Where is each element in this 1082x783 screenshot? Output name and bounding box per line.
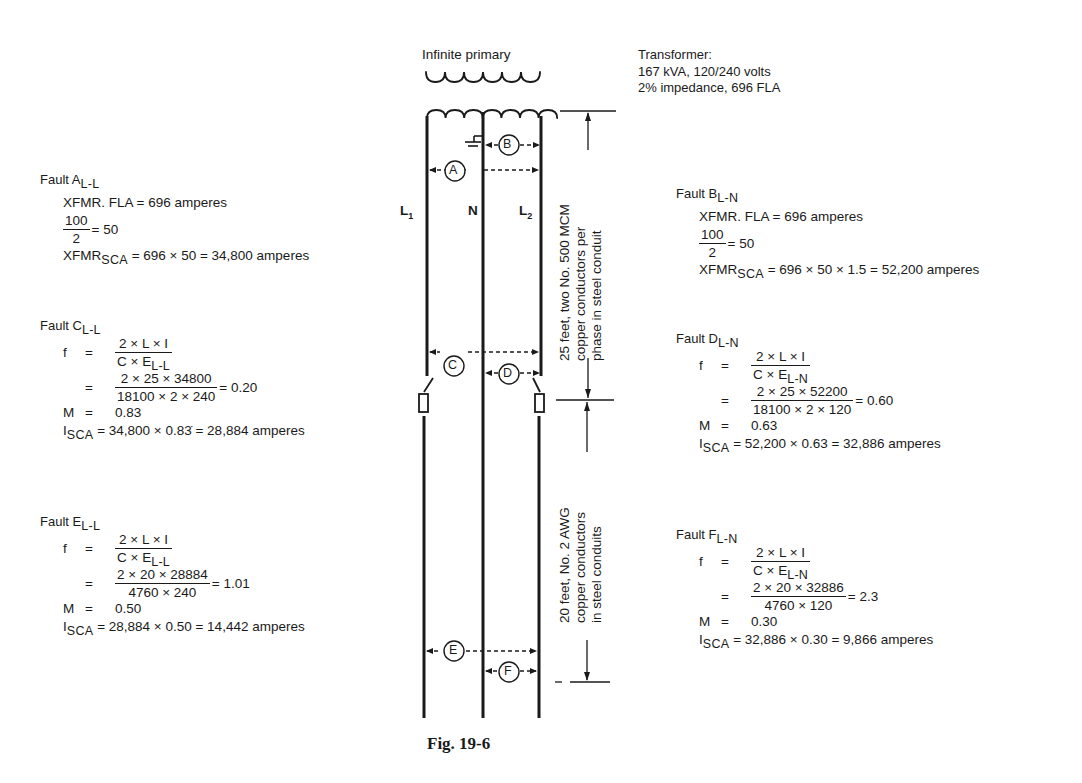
fault-e-calc: = 2 × 20 × 288844760 × 240 = 1.01 bbox=[63, 567, 305, 600]
fault-e-block: Fault EL-L f= 2 × L × IC × EL-L = 2 × 20… bbox=[40, 514, 305, 634]
breaker-l2-icon bbox=[533, 378, 544, 412]
fault-b-fla: XFMR. FLA = 696 amperes bbox=[699, 209, 979, 224]
fault-point-b-label: B bbox=[503, 137, 511, 151]
fault-point-f-label: F bbox=[504, 664, 512, 678]
transformer-impedance: 2% impedance, 696 FLA bbox=[638, 80, 780, 97]
fault-f-multiplier: M=0.30 bbox=[699, 614, 933, 629]
fault-c-title: Fault CL-L bbox=[40, 318, 305, 333]
breaker-l1-icon bbox=[419, 378, 433, 412]
fault-b-ratio: 1002 = 50 bbox=[699, 227, 979, 260]
transformer-title: Transformer: bbox=[638, 47, 780, 64]
infinite-primary-label: Infinite primary bbox=[422, 47, 511, 62]
fault-a-ratio: 1002 = 50 bbox=[63, 213, 309, 246]
fault-d-isca: ISCA = 52,200 × 0.63 = 32,886 amperes bbox=[699, 436, 941, 451]
fault-a-title: Fault AL-L bbox=[40, 172, 309, 187]
fault-c-isca: ISCA = 34,800 × 0.83̇ = 28,884 amperes bbox=[63, 423, 305, 438]
fault-f-title: Fault FL-N bbox=[676, 527, 933, 542]
fault-e-isca: ISCA = 28,884 × 0.50 = 14,442 amperes bbox=[63, 619, 305, 634]
fault-e-formula: f= 2 × L × IC × EL-L bbox=[63, 532, 305, 565]
figure-caption: Fig. 19-6 bbox=[427, 734, 490, 754]
fault-a-block: Fault AL-L XFMR. FLA = 696 amperes 1002 … bbox=[40, 172, 309, 263]
segment2-label: 20 feet, No. 2 AWG copper conductors in … bbox=[557, 507, 605, 623]
fault-e-multiplier: M=0.50 bbox=[63, 601, 305, 616]
secondary-winding-icon bbox=[427, 110, 557, 118]
fault-b-title: Fault BL-N bbox=[676, 186, 979, 201]
fault-point-d-label: D bbox=[503, 366, 512, 380]
fault-c-block: Fault CL-L f= 2 × L × IC × EL-L = 2 × 25… bbox=[40, 318, 305, 438]
transformer-specs: Transformer: 167 kVA, 120/240 volts 2% i… bbox=[638, 47, 780, 97]
fault-a-sca: XFMRSCA = 696 × 50 = 34,800 amperes bbox=[63, 248, 309, 263]
fault-e-title: Fault EL-L bbox=[40, 514, 305, 529]
fault-point-c-label: C bbox=[448, 358, 457, 372]
fault-d-title: Fault DL-N bbox=[676, 331, 941, 346]
fault-f-block: Fault FL-N f= 2 × L × IC × EL-N = 2 × 20… bbox=[676, 527, 933, 647]
fault-a-fla: XFMR. FLA = 696 amperes bbox=[63, 195, 309, 210]
ground-icon bbox=[465, 136, 483, 146]
fault-c-multiplier: M=0.83 bbox=[63, 405, 305, 420]
fault-f-formula: f= 2 × L × IC × EL-N bbox=[699, 545, 933, 578]
primary-winding-icon bbox=[426, 72, 540, 82]
conductor-n-label: N bbox=[468, 203, 478, 218]
fault-b-block: Fault BL-N XFMR. FLA = 696 amperes 1002 … bbox=[676, 186, 979, 277]
fault-c-formula: f= 2 × L × IC × EL-L bbox=[63, 336, 305, 369]
fault-d-block: Fault DL-N f= 2 × L × IC × EL-N = 2 × 25… bbox=[676, 331, 941, 451]
fault-d-multiplier: M=0.63 bbox=[699, 418, 941, 433]
fault-c-calc: = 2 × 25 × 3480018100 × 2 × 240 = 0.20 bbox=[63, 371, 305, 404]
fault-b-sca: XFMRSCA = 696 × 50 × 1.5 = 52,200 ampere… bbox=[699, 262, 979, 277]
conductor-l1-label: L1 bbox=[400, 203, 413, 221]
transformer-rating: 167 kVA, 120/240 volts bbox=[638, 64, 780, 81]
segment1-label: 25 feet, two No. 500 MCM copper conducto… bbox=[557, 204, 605, 361]
fault-f-calc: = 2 × 20 × 328864760 × 120 = 2.3 bbox=[699, 580, 933, 613]
conductor-l2-label: L2 bbox=[519, 203, 532, 221]
fault-point-a-label: A bbox=[449, 163, 457, 177]
fault-f-isca: ISCA = 32,886 × 0.30 = 9,866 amperes bbox=[699, 632, 933, 647]
fault-d-formula: f= 2 × L × IC × EL-N bbox=[699, 349, 941, 382]
fault-d-calc: = 2 × 25 × 5220018100 × 2 × 120 = 0.60 bbox=[699, 384, 941, 417]
fault-point-e-label: E bbox=[449, 643, 457, 657]
